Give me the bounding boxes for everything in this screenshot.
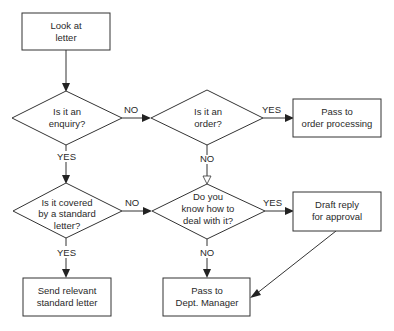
edge-label-no: NO (125, 197, 139, 208)
svg-text:Pass to: Pass to (191, 285, 223, 296)
edge-look-to-enquiry (62, 50, 70, 92)
svg-text:know how to: know how to (182, 203, 235, 214)
node-send-standard-letter: Send relevant standard letter (23, 278, 111, 316)
edge-know-how-to-draft-reply: YES (263, 197, 294, 215)
svg-text:Send relevant: Send relevant (38, 285, 97, 296)
edge-label-yes: YES (57, 151, 76, 162)
svg-text:for approval: for approval (312, 211, 362, 222)
flowchart-canvas: NO YES NO YES NO YES YES NO (0, 0, 394, 331)
svg-text:letter?: letter? (54, 220, 80, 231)
edge-order-to-order-processing: YES (262, 104, 294, 122)
node-is-order-decision: Is it an order? (151, 90, 263, 145)
node-look-at-letter: Look at letter (22, 13, 110, 50)
edge-enquiry-to-order: NO (122, 104, 151, 122)
svg-text:Look at: Look at (50, 20, 82, 31)
svg-text:Is it an: Is it an (53, 106, 81, 117)
svg-text:Is it an: Is it an (194, 106, 222, 117)
node-dept-manager: Pass to Dept. Manager (163, 278, 250, 316)
edge-label-no: NO (124, 104, 138, 115)
edge-draft-reply-to-dept-manager (250, 231, 336, 298)
node-order-processing: Pass to order processing (293, 99, 381, 137)
edge-label-yes: YES (263, 197, 282, 208)
edge-label-yes: YES (57, 247, 76, 258)
svg-text:order processing: order processing (302, 118, 373, 129)
svg-text:enquiry?: enquiry? (49, 118, 85, 129)
edge-covered-to-send-standard: YES (57, 238, 76, 278)
node-is-enquiry-decision: Is it an enquiry? (12, 91, 122, 145)
edge-covered-to-know-how: NO (122, 197, 152, 215)
edge-enquiry-to-covered: YES (57, 145, 76, 184)
node-covered-by-standard-decision: Is it covered by a standard letter? (13, 183, 122, 238)
svg-text:Is it covered: Is it covered (41, 197, 92, 208)
svg-text:Do you: Do you (193, 191, 223, 202)
svg-text:Draft reply: Draft reply (315, 199, 359, 210)
svg-text:Pass to: Pass to (321, 106, 353, 117)
edge-label-no: NO (200, 247, 214, 258)
edge-label-yes: YES (262, 104, 281, 115)
svg-text:deal with it?: deal with it? (183, 215, 233, 226)
node-draft-reply: Draft reply for approval (293, 192, 381, 231)
edge-know-how-to-dept-manager: NO (200, 239, 214, 278)
svg-text:standard letter: standard letter (37, 297, 98, 308)
node-know-how-decision: Do you know how to deal with it? (152, 184, 265, 239)
edge-label-no: NO (200, 153, 214, 164)
edge-order-to-know-how: NO (200, 145, 214, 184)
svg-text:order?: order? (194, 118, 221, 129)
svg-text:Dept. Manager: Dept. Manager (176, 297, 239, 308)
svg-text:by a standard: by a standard (38, 208, 96, 219)
svg-text:letter: letter (55, 32, 76, 43)
